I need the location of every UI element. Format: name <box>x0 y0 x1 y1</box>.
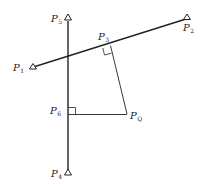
label-p6: P6 <box>49 105 61 117</box>
projection-diagram: P1 P2 P3 P5 P6 P4 PQ <box>0 0 208 185</box>
triangle-marker-p5 <box>65 14 72 20</box>
triangle-marker-p4 <box>65 169 72 175</box>
triangle-marker-p2 <box>184 14 191 20</box>
label-p4: P4 <box>50 168 62 180</box>
label-p1: P1 <box>12 62 24 74</box>
line-p3-pq <box>111 46 128 115</box>
label-pq: PQ <box>129 110 142 122</box>
right-angle-marker-p3 <box>103 48 112 55</box>
label-p3: P3 <box>97 31 109 43</box>
label-p2: P2 <box>182 22 194 34</box>
right-angle-marker-p6 <box>68 108 76 115</box>
line-p1-p2 <box>35 19 186 67</box>
label-p5: P5 <box>50 13 62 25</box>
